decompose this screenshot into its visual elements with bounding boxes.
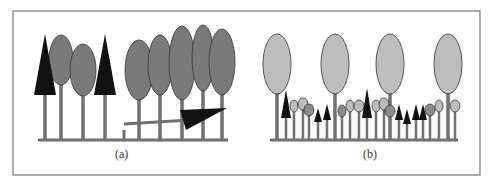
tree-trunk — [375, 110, 378, 140]
tree-trunk — [81, 94, 85, 140]
broadleaf-crown-icon — [263, 34, 291, 94]
broadleaf-crown-icon — [148, 35, 172, 95]
conifer-crown-icon — [412, 104, 420, 120]
tree-trunk — [285, 116, 288, 140]
tree-trunk — [103, 93, 107, 140]
tree-trunk — [220, 93, 224, 140]
tree-trunk — [326, 118, 329, 140]
tree-trunk — [358, 110, 361, 140]
broadleaf-crown-icon — [425, 104, 435, 116]
panel-a-even-aged-stand — [34, 25, 235, 142]
tree-trunk — [317, 120, 320, 140]
tree-trunk — [137, 98, 141, 140]
tree-trunk — [422, 118, 425, 140]
conifer-crown-icon — [395, 104, 403, 120]
broadleaf-crown-icon — [70, 44, 96, 96]
conifer-crown-icon — [94, 34, 116, 95]
broadleaf-crown-icon — [385, 105, 395, 117]
broadleaf-crown-icon — [321, 34, 349, 94]
tree-trunk — [454, 110, 457, 140]
broadleaf-crown-icon — [434, 34, 462, 94]
tree-trunk — [366, 116, 369, 140]
panel-b-uneven-aged-stand — [263, 34, 462, 142]
tree-trunk — [43, 93, 47, 140]
ground-line — [38, 139, 228, 142]
broadleaf-crown-icon — [376, 34, 404, 94]
broadleaf-crown-icon — [290, 100, 298, 112]
tree-trunk — [438, 110, 441, 140]
tree-trunk — [341, 115, 344, 140]
broadleaf-crown-icon — [209, 29, 235, 95]
tree-stump — [123, 130, 126, 140]
tree-trunk — [158, 93, 162, 140]
tree-trunk — [415, 118, 418, 140]
broadleaf-crown-icon — [372, 100, 380, 112]
caption-a: (a) — [115, 147, 128, 162]
broadleaf-crown-icon — [169, 26, 195, 100]
broadleaf-crown-icon — [354, 100, 364, 112]
tree-trunk — [308, 114, 311, 140]
tree-trunk — [275, 92, 279, 140]
tree-trunk — [406, 122, 409, 140]
tree-trunk — [398, 118, 401, 140]
tree-trunk — [333, 92, 337, 140]
tree-trunk — [302, 108, 305, 140]
tree-trunk — [389, 115, 392, 140]
tree-trunk — [429, 114, 432, 140]
tree-trunk — [293, 110, 296, 140]
tree-trunk — [446, 92, 450, 140]
broadleaf-crown-icon — [304, 104, 314, 116]
caption-b: (b) — [363, 147, 377, 162]
broadleaf-crown-icon — [435, 100, 443, 112]
conifer-crown-icon — [281, 90, 291, 118]
broadleaf-crown-icon — [346, 100, 354, 112]
conifer-crown-icon — [323, 104, 331, 120]
tree-trunk — [349, 110, 352, 140]
forest-stand-diagram — [0, 0, 490, 185]
broadleaf-crown-icon — [338, 105, 346, 117]
broadleaf-crown-icon — [450, 100, 460, 112]
conifer-crown-icon — [314, 108, 322, 122]
conifer-crown-icon — [403, 109, 411, 124]
fallen-tree-trunk — [124, 120, 190, 124]
tree-trunk — [59, 83, 63, 140]
